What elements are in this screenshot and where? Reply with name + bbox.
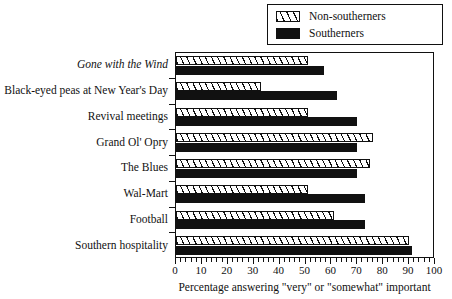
- category-label: Football: [130, 207, 168, 233]
- category-label: Revival meetings: [88, 104, 168, 130]
- bar-non-southerners: [176, 185, 308, 194]
- x-tick-minor: [284, 258, 285, 262]
- bar-southerners: [176, 194, 365, 203]
- legend-label-southerners: Southerners: [309, 27, 364, 39]
- category-label: Grand Ol' Opry: [96, 129, 168, 155]
- bar-southerners: [176, 169, 357, 178]
- bar-southerners: [176, 220, 365, 229]
- bar-group: [176, 156, 433, 182]
- x-tick-minor: [232, 258, 233, 262]
- bar-groups: [176, 53, 433, 257]
- bar-southerners: [176, 246, 412, 255]
- x-tick-minor: [377, 258, 378, 262]
- x-tick-minor: [180, 258, 181, 262]
- x-tick-minor: [206, 258, 207, 262]
- legend-entry-non-southerners: Non-southerners: [276, 10, 386, 22]
- x-tick-label: 100: [426, 264, 443, 277]
- bar-non-southerners: [176, 133, 373, 142]
- bar-non-southerners: [176, 56, 308, 65]
- legend-label-non-southerners: Non-southerners: [309, 10, 386, 22]
- bar-southerners: [176, 91, 337, 100]
- bar-southerners: [176, 117, 357, 126]
- x-tick-minor: [273, 258, 274, 262]
- bar-southerners: [176, 143, 357, 152]
- x-tick-minor: [299, 258, 300, 262]
- x-tick-minor: [196, 258, 197, 262]
- x-tick-label: 90: [403, 264, 414, 277]
- bar-group: [176, 208, 433, 234]
- x-tick-minor: [413, 258, 414, 262]
- x-tick-minor: [403, 258, 404, 262]
- plot-area: [175, 52, 434, 258]
- x-tick-label: 70: [351, 264, 362, 277]
- bar-group: [176, 79, 433, 105]
- x-tick-minor: [222, 258, 223, 262]
- x-tick-label: 60: [325, 264, 336, 277]
- x-tick-minor: [351, 258, 352, 262]
- category-label: Black-eyed peas at New Year's Day: [4, 78, 168, 104]
- x-tick-minor: [263, 258, 264, 262]
- x-tick-label: 40: [273, 264, 284, 277]
- x-tick-minor: [429, 258, 430, 262]
- category-label: The Blues: [121, 155, 168, 181]
- x-tick-minor: [367, 258, 368, 262]
- bar-non-southerners: [176, 159, 370, 168]
- x-axis-title: Percentage answering "very" or "somewhat…: [175, 280, 434, 294]
- x-tick-minor: [341, 258, 342, 262]
- x-tick-minor: [387, 258, 388, 262]
- x-tick-minor: [242, 258, 243, 262]
- bar-group: [176, 130, 433, 156]
- category-label: Southern hospitality: [75, 232, 168, 258]
- x-tick-minor: [268, 258, 269, 262]
- value-axis-tick-labels: 0102030405060708090100: [175, 264, 434, 278]
- x-tick-minor: [248, 258, 249, 262]
- x-tick-minor: [325, 258, 326, 262]
- x-tick-minor: [418, 258, 419, 262]
- legend-entry-southerners: Southerners: [276, 27, 364, 39]
- x-tick-minor: [289, 258, 290, 262]
- category-label: Gone with the Wind: [77, 52, 168, 78]
- category-label: Wal-Mart: [124, 181, 168, 207]
- category-axis-labels: Gone with the WindBlack-eyed peas at New…: [0, 52, 172, 258]
- bar-non-southerners: [176, 82, 261, 91]
- x-tick-label: 10: [195, 264, 206, 277]
- hatched-swatch-icon: [276, 11, 300, 22]
- x-tick-label: 20: [221, 264, 232, 277]
- x-tick-minor: [315, 258, 316, 262]
- x-tick-minor: [216, 258, 217, 262]
- legend: Non-southerners Southerners: [267, 4, 443, 45]
- bar-southerners: [176, 66, 324, 75]
- bar-non-southerners: [176, 236, 409, 245]
- x-tick-minor: [320, 258, 321, 262]
- x-tick-minor: [237, 258, 238, 262]
- x-tick-minor: [424, 258, 425, 262]
- bar-group: [176, 233, 433, 259]
- bar-group: [176, 53, 433, 79]
- x-tick-minor: [361, 258, 362, 262]
- bar-group: [176, 105, 433, 131]
- solid-swatch-icon: [276, 28, 300, 39]
- x-tick-minor: [191, 258, 192, 262]
- x-tick-label: 30: [247, 264, 258, 277]
- x-tick-minor: [211, 258, 212, 262]
- x-tick-label: 0: [172, 264, 178, 277]
- x-tick-minor: [336, 258, 337, 262]
- bar-group: [176, 182, 433, 208]
- x-tick-minor: [346, 258, 347, 262]
- bar-non-southerners: [176, 211, 334, 220]
- x-tick-minor: [372, 258, 373, 262]
- x-tick-minor: [310, 258, 311, 262]
- x-tick-minor: [398, 258, 399, 262]
- x-tick-label: 80: [377, 264, 388, 277]
- x-tick-minor: [393, 258, 394, 262]
- x-tick-minor: [294, 258, 295, 262]
- x-tick-minor: [185, 258, 186, 262]
- x-tick-minor: [258, 258, 259, 262]
- x-tick-label: 50: [299, 264, 310, 277]
- bar-non-southerners: [176, 108, 308, 117]
